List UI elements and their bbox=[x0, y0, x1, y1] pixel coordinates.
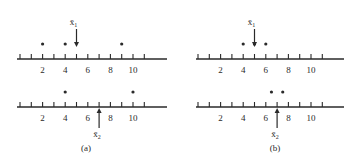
tick-label: 6 bbox=[86, 113, 91, 123]
number-line-bottom: 246810x̄2 bbox=[196, 90, 344, 140]
data-point bbox=[270, 90, 273, 93]
tick-label: 10 bbox=[129, 65, 139, 75]
tick-label: 4 bbox=[63, 65, 68, 75]
mean-subscript: 1 bbox=[252, 22, 255, 28]
tick-label: 10 bbox=[307, 113, 317, 123]
data-point bbox=[64, 90, 67, 93]
tick-label: 8 bbox=[108, 113, 113, 123]
mean-label-x2: x̄2 bbox=[271, 129, 279, 140]
tick-label: 6 bbox=[86, 65, 91, 75]
arrowhead-up-icon bbox=[275, 108, 280, 113]
data-point bbox=[64, 42, 67, 45]
tick-label: 8 bbox=[286, 65, 291, 75]
mean-label-x1: x̄1 bbox=[70, 17, 78, 28]
number-line-top: 246810x̄1 bbox=[196, 17, 344, 75]
mean-label-x2: x̄2 bbox=[93, 129, 101, 140]
data-point bbox=[41, 42, 44, 45]
arrowhead-down-icon bbox=[252, 42, 257, 47]
tick-label: 4 bbox=[241, 113, 246, 123]
arrowhead-down-icon bbox=[74, 42, 79, 47]
mean-subscript: 1 bbox=[74, 22, 77, 28]
tick-label: 6 bbox=[264, 113, 269, 123]
mean-subscript: 2 bbox=[276, 134, 279, 140]
tick-label: 10 bbox=[307, 65, 317, 75]
data-point bbox=[120, 42, 123, 45]
tick-label: 2 bbox=[40, 65, 45, 75]
number-line-top: 246810x̄1 bbox=[17, 17, 167, 75]
panel-b: 246810x̄1246810x̄2(b) bbox=[196, 17, 344, 153]
tick-label: 2 bbox=[40, 113, 45, 123]
tick-label: 6 bbox=[264, 65, 269, 75]
data-point bbox=[131, 90, 134, 93]
mean-subscript: 2 bbox=[98, 134, 101, 140]
tick-label: 4 bbox=[241, 65, 246, 75]
panel-caption-b: (b) bbox=[270, 143, 281, 153]
tick-label: 10 bbox=[129, 113, 139, 123]
data-point bbox=[264, 42, 267, 45]
panel-a: 246810x̄1246810x̄2(a) bbox=[17, 17, 167, 153]
arrowhead-up-icon bbox=[97, 108, 102, 113]
data-point bbox=[281, 90, 284, 93]
data-point bbox=[242, 42, 245, 45]
panel-caption-a: (a) bbox=[81, 143, 91, 153]
tick-label: 4 bbox=[63, 113, 68, 123]
tick-label: 8 bbox=[286, 113, 291, 123]
mean-label-x1: x̄1 bbox=[248, 17, 256, 28]
number-line-bottom: 246810x̄2 bbox=[17, 90, 167, 140]
tick-label: 2 bbox=[218, 113, 223, 123]
tick-label: 2 bbox=[218, 65, 223, 75]
dot-plot-figure: 246810x̄1246810x̄2(a)246810x̄1246810x̄2(… bbox=[0, 0, 363, 161]
tick-label: 8 bbox=[108, 65, 113, 75]
